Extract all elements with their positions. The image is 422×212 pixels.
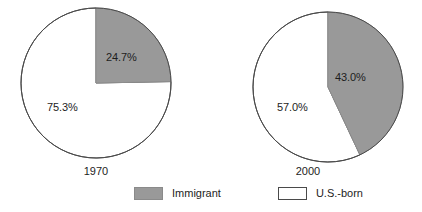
pie-label-immigrant-2000: 43.0% xyxy=(335,71,366,83)
legend-label-usborn: U.S.-born xyxy=(316,187,363,199)
pie-slice-immigrant-1970 xyxy=(96,8,171,83)
pie-chart-2000 xyxy=(251,10,405,164)
legend-swatch-usborn-icon xyxy=(278,187,307,200)
pie-year-label-2000: 2000 xyxy=(288,165,328,177)
pie-chart-figure: 24.7% 75.3% 1970 43.0% 57.0% 2000 Immigr… xyxy=(0,0,422,212)
chart-legend: Immigrant U.S.-born xyxy=(134,186,363,200)
pie-label-usborn-1970: 75.3% xyxy=(47,101,78,113)
legend-item-usborn: U.S.-born xyxy=(278,186,363,200)
pie-chart-1970 xyxy=(19,6,173,160)
legend-swatch-immigrant-icon xyxy=(134,187,163,200)
pie-year-label-1970: 1970 xyxy=(76,165,116,177)
legend-item-immigrant: Immigrant xyxy=(134,186,221,200)
legend-label-immigrant: Immigrant xyxy=(172,187,221,199)
pie-label-immigrant-1970: 24.7% xyxy=(106,51,137,63)
pie-label-usborn-2000: 57.0% xyxy=(277,101,308,113)
